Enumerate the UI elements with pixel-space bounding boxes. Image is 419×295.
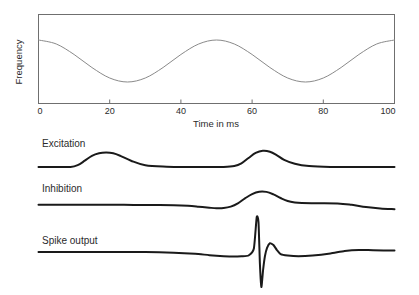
- x-tick-label-20: 20: [105, 106, 115, 116]
- y-axis-label: Frequency: [13, 39, 24, 84]
- x-tick-label-80: 80: [318, 106, 328, 116]
- x-tick-label-40: 40: [176, 106, 186, 116]
- spike-output-label: Spike output: [42, 235, 98, 246]
- neural-response-figure: Frequency 020406080100 Time in ms Excita…: [0, 0, 419, 295]
- excitation-label: Excitation: [42, 138, 85, 149]
- x-tick-label-100: 100: [380, 106, 395, 116]
- x-tick-label-60: 60: [247, 106, 257, 116]
- inhibition-label: Inhibition: [42, 183, 82, 194]
- x-tick-label-0: 0: [38, 106, 43, 116]
- x-axis-label: Time in ms: [193, 118, 239, 129]
